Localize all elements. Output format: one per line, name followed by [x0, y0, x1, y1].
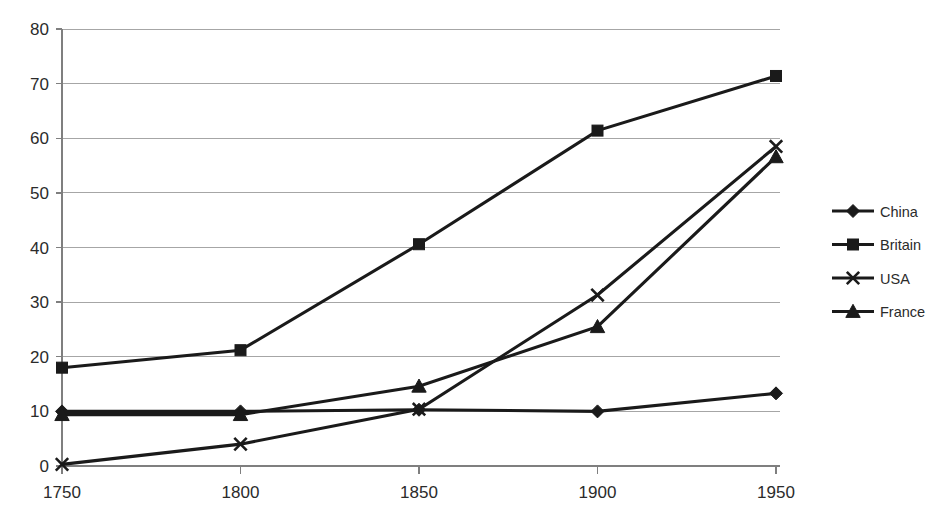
- x-tick-label-1850: 1850: [400, 483, 438, 502]
- legend-item-britain[interactable]: Britain: [832, 237, 921, 253]
- series-britain-point-1950-square-marker: [771, 70, 782, 81]
- series-britain: [57, 70, 782, 373]
- series-line-britain: [62, 76, 776, 368]
- x-tick-label-1750: 1750: [43, 483, 81, 502]
- y-tick-label-0: 0: [40, 457, 49, 476]
- x-axis-tick-labels: 17501800185019001950: [43, 483, 795, 502]
- x-tick-label-1950: 1950: [757, 483, 795, 502]
- y-tick-label-10: 10: [30, 402, 49, 421]
- chart-legend: ChinaBritainUSAFrance: [832, 204, 925, 321]
- line-chart: 01020304050607080 17501800185019001950 C…: [0, 0, 937, 521]
- legend-china-diamond-marker: [847, 205, 860, 218]
- y-tick-label-20: 20: [30, 348, 49, 367]
- legend-item-usa[interactable]: USA: [832, 271, 910, 287]
- y-tick-label-70: 70: [30, 75, 49, 94]
- x-tick-label-1800: 1800: [222, 483, 260, 502]
- series-china-point-1900-diamond-marker: [591, 405, 604, 418]
- legend-label-usa: USA: [880, 271, 910, 287]
- legend-britain-square-marker: [848, 239, 859, 250]
- x-tick-label-1900: 1900: [579, 483, 617, 502]
- series-china-point-1950-diamond-marker: [770, 387, 783, 400]
- legend-item-france[interactable]: France: [832, 304, 925, 320]
- data-series: [55, 70, 783, 470]
- y-tick-label-60: 60: [30, 129, 49, 148]
- series-france: [55, 150, 783, 421]
- series-britain-point-1800-square-marker: [235, 345, 246, 356]
- legend-label-britain: Britain: [880, 237, 921, 253]
- series-usa-point-1900-cross-marker: [591, 289, 603, 301]
- series-britain-point-1750-square-marker: [57, 362, 68, 373]
- series-britain-point-1900-square-marker: [592, 125, 603, 136]
- chart-canvas: 01020304050607080 17501800185019001950 C…: [0, 0, 937, 521]
- y-tick-label-40: 40: [30, 239, 49, 258]
- y-axis-tick-labels: 01020304050607080: [30, 20, 49, 476]
- y-tick-label-30: 30: [30, 293, 49, 312]
- legend-label-china: China: [880, 204, 919, 220]
- series-usa: [56, 140, 782, 470]
- y-tick-label-50: 50: [30, 184, 49, 203]
- series-line-france: [62, 157, 776, 415]
- legend-label-france: France: [880, 304, 925, 320]
- y-tick-label-80: 80: [30, 20, 49, 39]
- legend-item-china[interactable]: China: [832, 204, 919, 220]
- series-britain-point-1850-square-marker: [414, 239, 425, 250]
